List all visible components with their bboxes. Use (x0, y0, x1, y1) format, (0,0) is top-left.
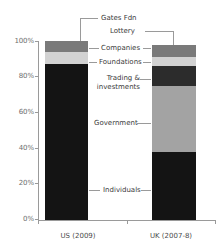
y-tick-label-100: 100% (8, 37, 34, 45)
leader-government-horizontal (137, 123, 151, 124)
callout-label-foundations: Foundations (99, 58, 142, 67)
y-tick-label-0: 0% (8, 215, 34, 223)
leader-individuals-left (89, 190, 100, 191)
bar-us-2009 (45, 41, 88, 220)
y-tick-label-80: 80% (8, 72, 34, 80)
callout-label-individuals: Individuals (103, 186, 141, 195)
y-tick-mark-60 (35, 112, 39, 113)
x-category-label-uk: UK (2007-8) (135, 232, 207, 240)
callout-trading-line1: Trading & (107, 74, 140, 82)
segment-us-foundations (45, 52, 88, 64)
leader-foundations-right (143, 62, 151, 63)
bar-uk-2007-8 (152, 45, 196, 220)
x-category-label-us: US (2009) (43, 232, 113, 240)
segment-us-individuals (45, 64, 88, 220)
callout-trading-line2: investments (97, 83, 140, 91)
y-tick-mark-80 (35, 76, 39, 77)
leader-gates-fdn-vertical (80, 18, 81, 41)
callout-label-trading-investments: Trading & investments (96, 74, 140, 91)
callout-label-lottery: Lottery (110, 27, 135, 36)
y-tick-mark-40 (35, 148, 39, 149)
x-tick-mark-left (38, 220, 39, 224)
x-tick-mark-right (215, 220, 216, 224)
callout-label-gates-fdn: Gates Fdn (101, 14, 137, 23)
y-axis-line (38, 41, 39, 220)
leader-individuals-right (141, 190, 151, 191)
y-tick-label-40: 40% (8, 144, 34, 152)
segment-uk-individuals (152, 152, 196, 220)
callout-label-companies: Companies (101, 44, 140, 53)
y-tick-mark-20 (35, 183, 39, 184)
leader-trading-horizontal (140, 79, 151, 80)
leader-gates-fdn-horizontal (80, 18, 98, 19)
callout-label-government: Government (94, 119, 138, 128)
y-tick-label-60: 60% (8, 108, 34, 116)
segment-uk-companies (152, 45, 196, 57)
leader-companies-right (143, 48, 151, 49)
x-tick-mark-mid (127, 220, 128, 224)
leader-lottery-vertical (173, 31, 174, 45)
y-tick-mark-100 (35, 41, 39, 42)
leader-foundations-left (89, 62, 97, 63)
y-tick-label-20: 20% (8, 179, 34, 187)
leader-lottery-horizontal (145, 31, 174, 32)
segment-us-companies (45, 41, 88, 52)
segment-uk-government (152, 86, 196, 152)
segment-uk-foundations (152, 57, 196, 66)
leader-companies-left (89, 48, 99, 49)
segment-uk-trading (152, 66, 196, 86)
stacked-bar-chart: 100% 80% 60% 40% 20% 0% US (2009) UK (20… (0, 0, 222, 251)
